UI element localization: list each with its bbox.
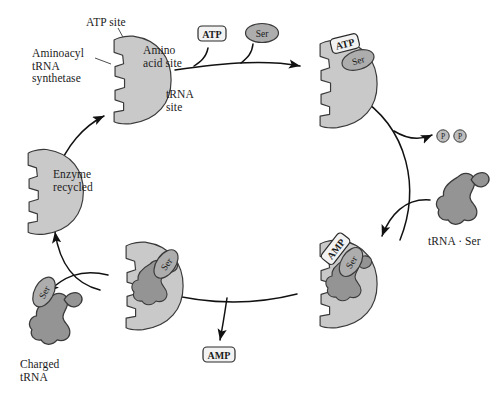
molecule-layer: ATP Ser ATP Ser AMP Ser Se: [0, 0, 504, 396]
ser-input-ellipse: Ser: [246, 24, 279, 43]
pyrophosphate-p1: P: [437, 130, 449, 142]
aminoacyl-trna-synthetase-cycle-figure: ATP Ser ATP Ser AMP Ser Se: [0, 0, 504, 396]
atp-input-badge: ATP: [198, 26, 226, 41]
pyrophosphate-p2: P: [454, 130, 466, 142]
ser-input-label: Ser: [256, 29, 270, 39]
pyrophosphate-p2-label: P: [458, 132, 462, 141]
ser-charged-ellipse: Ser: [28, 273, 60, 310]
atp-input-label: ATP: [202, 29, 221, 40]
amp-released-label: AMP: [208, 350, 231, 361]
ser-bound-left-ellipse: Ser: [149, 245, 183, 282]
amp-released-badge: AMP: [203, 347, 235, 362]
pyrophosphate-p1-label: P: [441, 132, 445, 141]
